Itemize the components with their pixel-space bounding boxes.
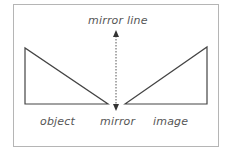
image-triangle: [125, 47, 207, 104]
object-triangle: [25, 48, 108, 104]
object-label: object: [40, 115, 75, 128]
arrow-up-icon: [113, 30, 119, 37]
image-label: image: [153, 115, 188, 128]
mirror-label: mirror: [100, 115, 135, 128]
mirror-line-label: mirror line: [88, 14, 148, 27]
arrow-down-icon: [113, 104, 119, 111]
